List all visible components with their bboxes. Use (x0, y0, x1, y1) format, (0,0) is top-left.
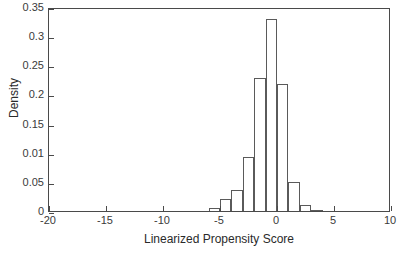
y-axis-tick-label: 0.35 (23, 2, 44, 13)
y-axis-tick (49, 155, 54, 156)
y-axis-tick (49, 184, 54, 185)
y-axis-tick-label: 0.2 (29, 89, 44, 100)
x-axis-tick-labels: -20-15-10-50510 (48, 215, 390, 231)
plot-area (48, 8, 390, 212)
histogram-bar (254, 78, 265, 211)
y-axis-tick (49, 67, 54, 68)
y-axis-title: Density (8, 63, 20, 133)
y-axis-tick-label: 0.15 (23, 119, 44, 130)
x-axis-tick-label: -5 (199, 215, 239, 226)
histogram-bar (288, 182, 299, 211)
x-axis-tick (163, 206, 164, 211)
y-axis-tick (49, 38, 54, 39)
histogram-figure: 00.050.010.150.20.250.30.35 Density -20-… (0, 0, 405, 255)
histogram-bar (266, 19, 277, 211)
y-axis-tick-label: 0.01 (23, 148, 44, 159)
x-axis-tick-label: -15 (85, 215, 125, 226)
histogram-bar (243, 157, 254, 211)
y-axis-tick (49, 96, 54, 97)
x-axis-tick (334, 206, 335, 211)
x-axis-title: Linearized Propensity Score (48, 233, 390, 245)
x-axis-tick (391, 206, 392, 211)
histogram-bar (209, 208, 220, 211)
x-axis-tick-label: 10 (370, 215, 405, 226)
x-axis-tick-label: 0 (256, 215, 296, 226)
x-axis-tick (220, 206, 221, 211)
y-axis-tick (49, 9, 54, 10)
x-axis-tick-label: -20 (28, 215, 68, 226)
x-axis-tick (277, 206, 278, 211)
histogram-bar (277, 84, 288, 211)
x-axis-tick-label: 5 (313, 215, 353, 226)
histogram-bar (311, 210, 322, 211)
y-axis-tick-label: 0.05 (23, 177, 44, 188)
x-axis-tick-label: -10 (142, 215, 182, 226)
histogram-bar (220, 199, 231, 211)
histogram-bars (49, 9, 389, 211)
y-axis-tick-label: 0.25 (23, 60, 44, 71)
y-axis-tick-label: 0.3 (29, 31, 44, 42)
x-axis-tick (106, 206, 107, 211)
histogram-bar (231, 190, 242, 211)
x-axis-tick (49, 206, 50, 211)
y-axis-tick (49, 126, 54, 127)
histogram-bar (300, 205, 311, 211)
